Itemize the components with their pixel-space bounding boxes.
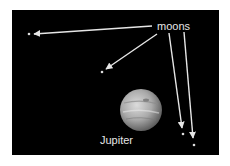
moon-1 xyxy=(28,33,31,36)
arrow-2 xyxy=(106,34,157,69)
moon-2 xyxy=(101,71,104,74)
arrow-3 xyxy=(169,33,182,128)
moon-arrows xyxy=(34,26,193,138)
arrow-1 xyxy=(34,26,152,34)
moon-4 xyxy=(193,144,196,147)
jupiter-label: Jupiter xyxy=(100,135,133,146)
moon-dots xyxy=(28,33,196,147)
moon-3 xyxy=(182,133,185,136)
arrow-4 xyxy=(184,32,193,138)
jupiter-planet xyxy=(120,89,162,131)
moons-label: moons xyxy=(157,21,190,32)
